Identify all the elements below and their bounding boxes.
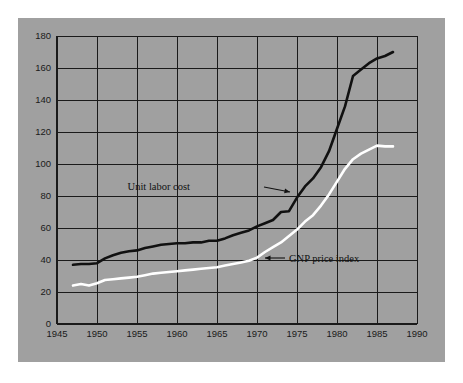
x-tick-label: 1950: [86, 328, 107, 339]
y-tick-label: 160: [35, 62, 51, 73]
y-tick-label: 100: [35, 158, 51, 169]
series-line-1: [73, 52, 393, 265]
y-tick-label: 20: [40, 286, 51, 297]
chart-figure: 020406080100120140160180 194519501955196…: [0, 0, 463, 383]
x-tick-label: 1955: [126, 328, 147, 339]
annotation-label: Unit labor cost: [128, 181, 190, 192]
y-tick-label: 140: [35, 94, 51, 105]
x-tick-labels: 1945195019551960196519701975198019851990: [46, 328, 427, 339]
y-tick-label: 180: [35, 30, 51, 41]
x-tick-label: 1980: [326, 328, 347, 339]
annotations: Unit labor costGNP price index: [128, 181, 360, 264]
annotation-label: GNP price index: [289, 253, 360, 264]
line-chart: 020406080100120140160180 194519501955196…: [0, 0, 463, 383]
grid-lines: [57, 36, 417, 324]
x-tick-label: 1970: [246, 328, 267, 339]
series-lines: [73, 52, 393, 286]
annotation-arrow-head: [284, 189, 290, 194]
x-tick-label: 1990: [406, 328, 427, 339]
axis-lines: [57, 36, 417, 324]
x-tick-label: 1985: [366, 328, 387, 339]
y-tick-label: 80: [40, 190, 51, 201]
y-tick-labels: 020406080100120140160180: [35, 30, 51, 329]
x-tick-label: 1945: [46, 328, 67, 339]
y-tick-label: 40: [40, 254, 51, 265]
series-line-2: [73, 146, 393, 286]
x-tick-label: 1965: [206, 328, 227, 339]
x-tick-label: 1975: [286, 328, 307, 339]
x-tick-label: 1960: [166, 328, 187, 339]
y-tick-label: 60: [40, 222, 51, 233]
y-tick-label: 120: [35, 126, 51, 137]
